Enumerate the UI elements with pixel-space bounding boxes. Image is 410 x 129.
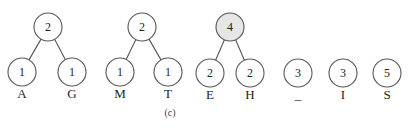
node-weight: 1 [117, 65, 123, 79]
node-weight: 1 [19, 65, 25, 79]
tree-edge [29, 39, 41, 60]
huffman-forest-diagram: 21A1G21M1T42E2H3_3I5S(c) [0, 0, 410, 129]
singleton-node: 3I [329, 59, 357, 102]
leaf-node: 1T [154, 58, 182, 101]
tree-edge [126, 40, 136, 60]
node-weight: 2 [45, 20, 51, 34]
node-weight: 4 [227, 20, 233, 34]
root-node: 2 [128, 13, 156, 41]
leaf-node: 2E [196, 59, 224, 102]
node-weight: 1 [69, 65, 75, 79]
node-symbol-label: _ [294, 87, 302, 102]
tree-edge [216, 40, 225, 60]
singleton-node: 3_ [284, 59, 312, 102]
tree-edge [55, 39, 66, 59]
node-symbol-label: S [383, 87, 390, 102]
node-weight: 1 [165, 65, 171, 79]
root-node: 4 [216, 13, 244, 41]
subtree-0: 21A1G [8, 13, 86, 101]
node-symbol-label: M [114, 86, 126, 101]
node-symbol-label: A [17, 86, 27, 101]
tree-edge [236, 40, 245, 60]
node-symbol-label: I [341, 87, 345, 102]
node-symbol-label: E [206, 87, 214, 102]
node-weight: 2 [207, 66, 213, 80]
leaf-node: 1M [106, 58, 134, 101]
node-weight: 3 [340, 66, 346, 80]
leaf-node: 1A [8, 58, 36, 101]
node-weight: 5 [384, 66, 390, 80]
node-weight: 2 [247, 66, 253, 80]
node-weight: 2 [139, 20, 145, 34]
node-symbol-label: G [67, 86, 76, 101]
node-weight: 3 [295, 66, 301, 80]
subtree-1: 21M1T [106, 13, 182, 101]
leaf-node: 1G [58, 58, 86, 101]
diagram-svg: 21A1G21M1T42E2H3_3I5S(c) [0, 0, 410, 129]
tree-edge [149, 39, 161, 60]
root-node: 2 [34, 13, 62, 41]
singleton-node: 5S [373, 59, 401, 102]
figure-caption: (c) [164, 107, 175, 119]
subtree-2: 42E2H [196, 13, 264, 102]
leaf-node: 2H [236, 59, 264, 102]
node-symbol-label: T [164, 86, 172, 101]
node-symbol-label: H [245, 87, 254, 102]
